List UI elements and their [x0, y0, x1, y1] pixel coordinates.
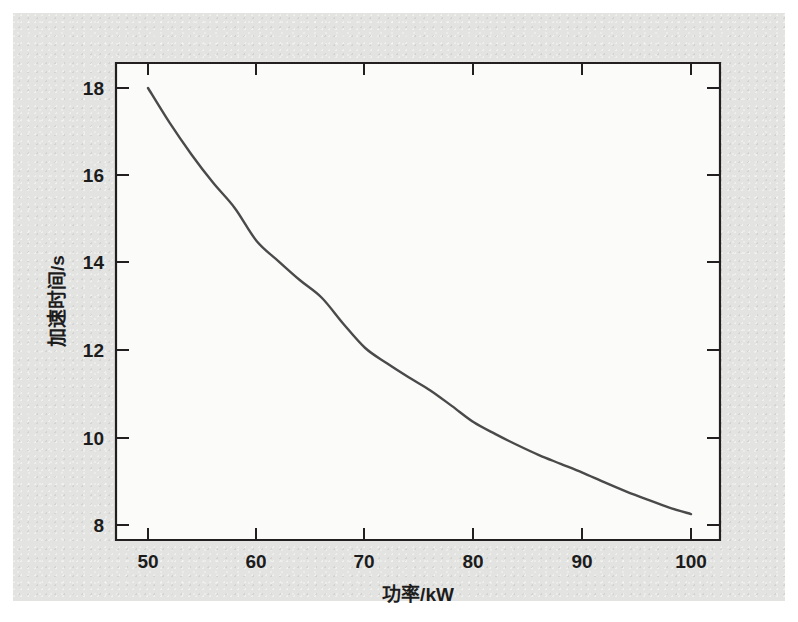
y-tick-label-16: 16	[83, 165, 104, 186]
y-tick-label-18: 18	[83, 78, 104, 99]
plot-area-background	[116, 63, 720, 540]
x-tick-label-80: 80	[462, 551, 483, 572]
x-tick-label-100: 100	[675, 551, 707, 572]
y-tick-label-10: 10	[83, 428, 104, 449]
y-tick-label-8: 8	[93, 515, 104, 536]
x-tick-label-70: 70	[353, 551, 374, 572]
x-tick-label-90: 90	[571, 551, 592, 572]
y-axis-title: 加速时间/s	[46, 255, 68, 348]
x-axis-title: 功率/kW	[382, 583, 454, 605]
acceleration-time-vs-power-chart: 18 16 14 12 10 8 50 60 70 80 90 100 功率/k…	[0, 0, 798, 622]
x-tick-label-60: 60	[245, 551, 266, 572]
page-root: 18 16 14 12 10 8 50 60 70 80 90 100 功率/k…	[0, 0, 798, 622]
y-tick-label-12: 12	[83, 340, 104, 361]
x-tick-label-50: 50	[137, 551, 158, 572]
y-tick-label-14: 14	[83, 252, 105, 273]
